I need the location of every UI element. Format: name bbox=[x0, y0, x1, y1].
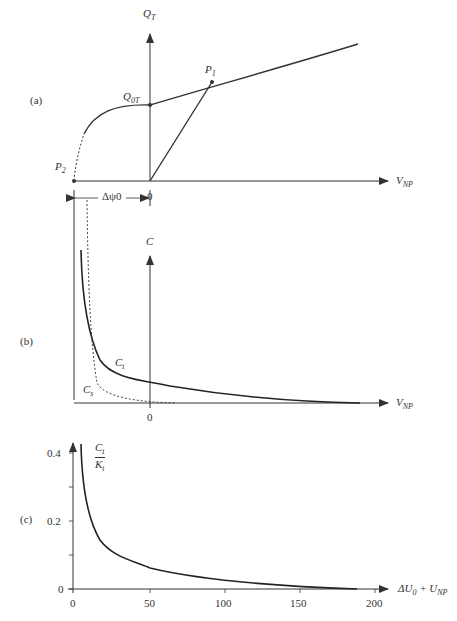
c-axis-label: C bbox=[146, 235, 153, 247]
ct-curve bbox=[81, 250, 360, 403]
origin-b: 0 bbox=[147, 411, 153, 423]
panel-b-label: (b) bbox=[20, 335, 33, 347]
panel-c-label: (c) bbox=[20, 513, 32, 525]
cs-label: Cs bbox=[83, 383, 93, 398]
ct-kt-curve bbox=[81, 444, 357, 589]
ct-label: Ct bbox=[115, 356, 125, 371]
qt-curve bbox=[84, 44, 358, 134]
x-tick-200: 200 bbox=[366, 597, 383, 609]
x-tick-0: 0 bbox=[70, 597, 76, 609]
y-tick-0: 0 bbox=[58, 583, 64, 595]
panel-c bbox=[68, 443, 388, 593]
vnp-axis-label-b: VNP bbox=[396, 396, 413, 411]
delta-psi-marker bbox=[74, 190, 150, 400]
x-tick-50: 50 bbox=[144, 597, 155, 609]
x-axis-label-c: ΔU0 + UNP bbox=[398, 582, 448, 597]
x-ticks bbox=[150, 589, 375, 593]
qt-curve-dashed bbox=[74, 134, 84, 181]
origin-a: 0 bbox=[147, 190, 153, 202]
p1-line bbox=[150, 82, 212, 181]
figure-canvas bbox=[0, 0, 457, 621]
panel-a bbox=[72, 34, 388, 183]
x-tick-100: 100 bbox=[215, 597, 232, 609]
ct-kt-label: CtKt bbox=[95, 441, 105, 475]
p1-label: P1 bbox=[205, 63, 216, 78]
q0t-point bbox=[148, 103, 152, 107]
qt-axis-label: QT bbox=[143, 7, 155, 22]
y-tick-0.4: 0.4 bbox=[47, 447, 61, 459]
p2-label: P2 bbox=[55, 160, 66, 175]
panel-a-label: (a) bbox=[30, 94, 42, 106]
vnp-axis-label-a: VNP bbox=[396, 174, 413, 189]
delta-psi-label: Δψ0 bbox=[102, 190, 121, 202]
p2-point bbox=[72, 179, 76, 183]
cs-curve bbox=[87, 200, 175, 403]
x-tick-150: 150 bbox=[290, 597, 307, 609]
y-ticks bbox=[69, 453, 73, 589]
y-tick-0.2: 0.2 bbox=[47, 515, 61, 527]
p1-point bbox=[210, 80, 214, 84]
q0t-label: Q0T bbox=[123, 90, 139, 105]
panel-b bbox=[74, 200, 388, 408]
